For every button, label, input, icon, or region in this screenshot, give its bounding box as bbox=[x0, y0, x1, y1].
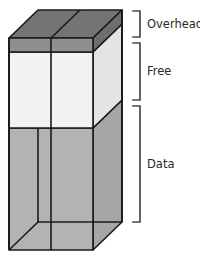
bracket-data bbox=[133, 106, 140, 222]
block-diagram-svg: Overhead Free Data bbox=[0, 0, 200, 261]
diagram-canvas: Overhead Free Data bbox=[0, 0, 200, 261]
bracket-free-shape bbox=[133, 43, 140, 100]
label-data: Data bbox=[147, 157, 174, 171]
bracket-free bbox=[133, 43, 140, 100]
label-free: Free bbox=[147, 64, 171, 78]
label-overhead: Overhead bbox=[147, 17, 200, 31]
bracket-overhead bbox=[133, 11, 140, 37]
bracket-data-shape bbox=[133, 106, 140, 222]
bracket-overhead-shape bbox=[133, 11, 140, 37]
